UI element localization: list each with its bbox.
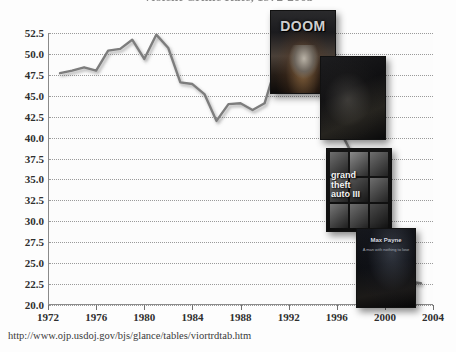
y-axis-tick-label: 30.0 bbox=[2, 215, 44, 227]
gta-photo-cell bbox=[350, 204, 368, 228]
gta-title-line3: auto III bbox=[331, 190, 360, 200]
y-axis-tick-label: 35.0 bbox=[2, 173, 44, 185]
doom-title: DOOM bbox=[271, 18, 335, 34]
x-axis-tick-label: 2004 bbox=[410, 311, 456, 323]
y-axis-tick-label: 45.0 bbox=[2, 90, 44, 102]
x-axis-tick-label: 1984 bbox=[169, 311, 215, 323]
x-axis-tick bbox=[192, 305, 193, 310]
boxart-dark-shooter bbox=[320, 56, 386, 140]
gta-title: grand theft auto III bbox=[331, 171, 360, 200]
max-payne-title: Max Payne bbox=[357, 237, 415, 243]
chart-canvas: Violent Crime Rate, 1972-2003 52.550.047… bbox=[0, 0, 456, 352]
y-axis-tick-label: 52.5 bbox=[2, 27, 44, 39]
x-axis-tick bbox=[337, 305, 338, 310]
y-axis-tick-label: 50.0 bbox=[2, 48, 44, 60]
x-axis-tick bbox=[144, 305, 145, 310]
y-axis-tick-label: 32.5 bbox=[2, 194, 44, 206]
boxart-grand-theft-auto-iii: grand theft auto III bbox=[326, 148, 392, 232]
gta-photo-cell bbox=[370, 152, 388, 176]
y-axis-tick-label: 25.0 bbox=[2, 257, 44, 269]
y-axis-tick-label: 27.5 bbox=[2, 236, 44, 248]
gta-photo-cell bbox=[370, 204, 388, 228]
x-axis-tick bbox=[241, 305, 242, 310]
boxart-max-payne: Max Payne A man with nothing to lose bbox=[356, 228, 416, 308]
y-axis-tick-label: 20.0 bbox=[2, 299, 44, 311]
dark-shooter-cover-art bbox=[321, 57, 385, 139]
x-axis-tick-label: 2000 bbox=[362, 311, 408, 323]
y-axis-tick-label: 22.5 bbox=[2, 278, 44, 290]
y-axis-tick-label: 40.0 bbox=[2, 132, 44, 144]
y-axis-tick-label: 47.5 bbox=[2, 69, 44, 81]
page-title: Violent Crime Rate, 1972-2003 bbox=[0, 0, 456, 5]
gta-photo-cell bbox=[330, 204, 348, 228]
x-axis-tick-label: 1980 bbox=[121, 311, 167, 323]
gta-photo-cell bbox=[370, 178, 388, 202]
x-axis-tick bbox=[48, 305, 49, 310]
x-axis-tick-label: 1996 bbox=[314, 311, 360, 323]
x-axis-tick-label: 1988 bbox=[218, 311, 264, 323]
max-payne-tagline: A man with nothing to lose bbox=[357, 247, 415, 252]
x-axis-tick bbox=[433, 305, 434, 310]
y-axis-tick-label: 42.5 bbox=[2, 111, 44, 123]
x-axis-tick-label: 1976 bbox=[73, 311, 119, 323]
x-axis-tick-label: 1972 bbox=[25, 311, 71, 323]
x-axis-tick-label: 1992 bbox=[266, 311, 312, 323]
doom-figure bbox=[289, 45, 319, 79]
chart-title-strip: Violent Crime Rate, 1972-2003 bbox=[0, 0, 456, 9]
x-axis-tick bbox=[96, 305, 97, 310]
y-axis-tick-label: 37.5 bbox=[2, 153, 44, 165]
source-url: http://www.ojp.usdoj.gov/bjs/glance/tabl… bbox=[8, 330, 251, 341]
x-axis-tick bbox=[289, 305, 290, 310]
